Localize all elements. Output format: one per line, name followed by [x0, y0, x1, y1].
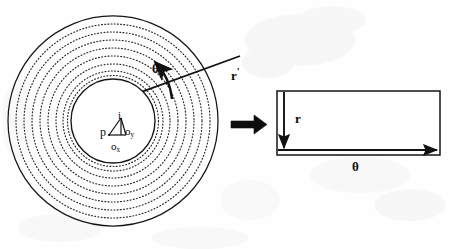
- label-offset-y-sub: y: [131, 131, 135, 139]
- label-offset-x-sub: x: [117, 146, 121, 154]
- label-theta-polar: θ: [152, 62, 159, 75]
- unwrapped-rectangle-group: [277, 91, 440, 155]
- label-r-prime-mark: ': [237, 66, 240, 77]
- rectangle-outline: [277, 91, 440, 155]
- label-point-p: p: [100, 126, 106, 138]
- polar-disc-group: [8, 16, 240, 226]
- diagram-svg: [0, 0, 455, 249]
- point-p-dot: [108, 134, 110, 136]
- paper-grain: [0, 0, 455, 249]
- label-offset-y: oy: [125, 126, 134, 139]
- label-intensity: i: [118, 110, 121, 121]
- label-r-prime: r': [231, 67, 240, 82]
- label-theta-rect: θ: [352, 160, 359, 173]
- label-offset-x: ox: [111, 141, 120, 154]
- transform-arrow: [231, 115, 267, 134]
- figure-canvas: θ r' i p oy ox r θ: [0, 0, 455, 249]
- label-r-rect: r: [295, 112, 301, 125]
